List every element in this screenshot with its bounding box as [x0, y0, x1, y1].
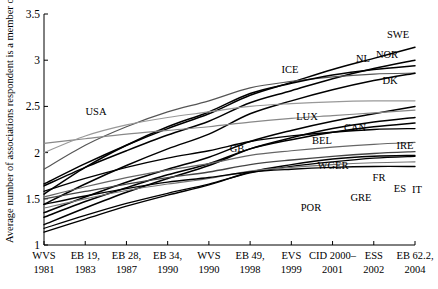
y-tick-label: 3	[34, 54, 40, 66]
series-curves	[44, 47, 415, 232]
x-tick-label-line1: EB 62.2,	[396, 250, 433, 261]
series-labels: SWENORNLICEDKLUXCANUSABELIREGBWGERFRESIT…	[85, 29, 422, 213]
series-label-ire: IRE	[397, 140, 414, 151]
x-tick-marks	[44, 241, 415, 245]
series-label-por: POR	[301, 202, 321, 213]
y-tick-label: 2.5	[26, 100, 41, 112]
x-tick-label-line1: EB 19,	[71, 250, 100, 261]
series-label-gb: GB	[230, 143, 245, 154]
y-tick-label: 3.5	[26, 8, 41, 20]
x-tick-label-line2: 2001	[322, 264, 343, 275]
series-label-fr: FR	[373, 172, 386, 183]
x-tick-label-line1: EVS	[281, 250, 301, 261]
y-tick-labels: 11.522.533.5	[26, 8, 41, 251]
x-tick-label-line1: CID 2000–	[309, 250, 357, 261]
series-label-lux: LUX	[296, 111, 318, 122]
x-tick-label: WVS1990	[197, 250, 220, 275]
x-tick-label: EVS1999	[281, 250, 302, 275]
x-tick-labels: WVS1981EB 19,1983EB 28,1987EB 34,1990WVS…	[32, 250, 433, 275]
series-line-ire	[44, 117, 415, 224]
x-tick-label-line2: 1990	[198, 264, 219, 275]
x-tick-label: EB 62.2,2004	[396, 250, 433, 275]
series-label-dk: DK	[382, 75, 398, 86]
series-label-wger: WGER	[318, 160, 349, 171]
x-tick-label: EB 34,1990	[153, 250, 182, 275]
y-axis-title-text: Average number of associations responden…	[4, 0, 15, 243]
y-axis-title: Average number of associations responden…	[4, 0, 15, 243]
x-tick-label: EB 19,1983	[71, 250, 100, 275]
y-tick-label: 1.5	[26, 193, 41, 205]
series-label-nl: NL	[356, 53, 370, 64]
x-tick-label-line2: 1999	[281, 264, 302, 275]
x-tick-label-line2: 1998	[240, 264, 261, 275]
x-tick-label-line2: 1990	[157, 264, 178, 275]
x-tick-label-line1: WVS	[32, 250, 55, 261]
x-tick-label: EB 28,1987	[112, 250, 141, 275]
line-chart: Average number of associations responden…	[0, 0, 438, 289]
series-label-nor: NOR	[376, 49, 398, 60]
series-label-bel: BEL	[312, 135, 332, 146]
x-tick-label-line2: 1981	[34, 264, 55, 275]
series-label-swe: SWE	[387, 29, 409, 40]
x-tick-label-line1: EB 49,	[236, 250, 265, 261]
x-tick-label-line2: 2002	[363, 264, 384, 275]
x-tick-label: WVS1981	[32, 250, 55, 275]
y-tick-marks	[44, 14, 48, 245]
y-tick-label: 2	[34, 147, 40, 159]
series-label-ice: ICE	[282, 64, 299, 75]
x-tick-label: CID 2000–2001	[309, 250, 357, 275]
series-label-usa: USA	[85, 106, 106, 117]
x-tick-label-line1: ESS	[365, 250, 383, 261]
x-tick-label: ESS2002	[363, 250, 384, 275]
x-tick-label-line1: EB 34,	[153, 250, 182, 261]
series-label-it: IT	[412, 184, 422, 195]
series-label-can: CAN	[344, 122, 367, 133]
chart-container: Average number of associations responden…	[0, 0, 438, 289]
x-tick-label-line2: 1987	[116, 264, 137, 275]
x-tick-label-line1: EB 28,	[112, 250, 141, 261]
x-tick-label: EB 49,1998	[236, 250, 265, 275]
x-tick-label-line2: 2004	[405, 264, 427, 275]
series-label-gre: GRE	[351, 192, 372, 203]
x-tick-label-line1: WVS	[197, 250, 220, 261]
x-tick-label-line2: 1983	[75, 264, 96, 275]
series-label-es: ES	[394, 183, 406, 194]
